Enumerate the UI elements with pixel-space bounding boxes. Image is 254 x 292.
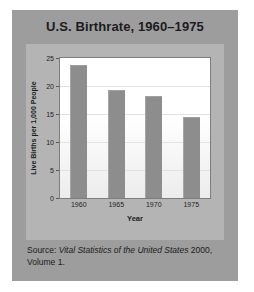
bar	[70, 65, 87, 198]
y-tick-label: 25	[46, 55, 54, 62]
source-publication-title: Vital Statistics of the United States	[59, 245, 189, 255]
y-tick-label: 15	[46, 111, 54, 118]
chart-figure: U.S. Birthrate, 1960–1975 Live Births pe…	[0, 0, 254, 292]
x-tick-label: 1960	[71, 201, 87, 208]
chart-title: U.S. Birthrate, 1960–1975	[12, 19, 238, 34]
bars-layer	[60, 58, 210, 198]
bar	[108, 90, 125, 198]
bar	[145, 96, 162, 198]
plot-panel: Live Births per 1,000 People 0510152025 …	[26, 44, 224, 240]
y-tick-label: 20	[46, 83, 54, 90]
x-axis: 1960196519701975	[59, 201, 211, 213]
source-prefix: Source:	[27, 245, 59, 255]
y-tick-label: 10	[46, 139, 54, 146]
x-axis-title: Year	[59, 214, 211, 223]
source-note: Source: Vital Statistics of the United S…	[27, 245, 232, 268]
x-tick-label: 1965	[108, 201, 124, 208]
plot-area	[59, 57, 211, 199]
y-axis: 0510152025	[26, 57, 59, 199]
bar	[183, 117, 200, 198]
x-tick-label: 1970	[146, 201, 162, 208]
y-tick-label: 5	[50, 167, 54, 174]
y-tick-label: 0	[50, 195, 54, 202]
x-tick-label: 1975	[183, 201, 199, 208]
chart-card: U.S. Birthrate, 1960–1975 Live Births pe…	[12, 10, 238, 281]
